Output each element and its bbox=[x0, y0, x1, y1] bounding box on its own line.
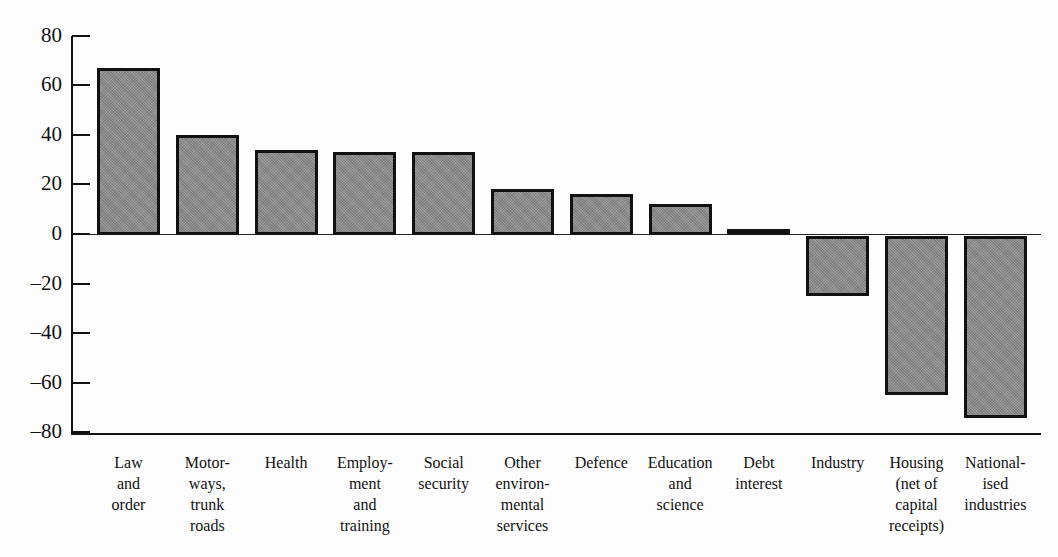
y-tick-label: –60 bbox=[6, 372, 62, 393]
category-label-line: environ- bbox=[473, 473, 573, 494]
y-tick-label: –80 bbox=[6, 421, 62, 442]
bar-health bbox=[255, 150, 318, 235]
category-label-line: services bbox=[473, 515, 573, 536]
bar-motorways-trunk-roads bbox=[176, 135, 239, 235]
category-label-line: industries bbox=[945, 494, 1045, 515]
y-tick bbox=[72, 431, 90, 433]
y-tick-label: 0 bbox=[6, 223, 62, 244]
y-tick bbox=[72, 382, 90, 384]
bar-other-environmental-services bbox=[491, 189, 554, 235]
bar-housing-net-of-capital-receipts bbox=[885, 236, 948, 395]
category-label-line: training bbox=[315, 515, 415, 536]
y-tick-label: 80 bbox=[6, 25, 62, 46]
category-label-line: ised bbox=[945, 473, 1045, 494]
category-label: National-isedindustries bbox=[945, 452, 1045, 515]
bar-education-and-science bbox=[649, 204, 712, 235]
y-tick-label: 40 bbox=[6, 124, 62, 145]
category-label-line: trunk bbox=[157, 494, 257, 515]
y-tick bbox=[72, 35, 90, 37]
y-tick-label: –40 bbox=[6, 322, 62, 343]
bar-law-and-order bbox=[97, 68, 160, 235]
category-label-line: and bbox=[315, 494, 415, 515]
bar-employment-and-training bbox=[333, 152, 396, 235]
y-tick bbox=[72, 233, 90, 235]
y-tick bbox=[72, 84, 90, 86]
y-axis bbox=[71, 36, 73, 435]
category-label-line: science bbox=[630, 494, 730, 515]
y-tick bbox=[72, 183, 90, 185]
category-label-line: interest bbox=[709, 473, 809, 494]
bar-debt-interest bbox=[727, 229, 790, 235]
y-tick-label: 60 bbox=[6, 74, 62, 95]
y-tick bbox=[72, 134, 90, 136]
bar-chart: 806040200–20–40–60–80 LawandorderMotor-w… bbox=[0, 0, 1058, 557]
category-label-line: mental bbox=[473, 494, 573, 515]
bar-nationalised-industries bbox=[964, 236, 1027, 418]
y-tick bbox=[72, 283, 90, 285]
bar-social-security bbox=[412, 152, 475, 235]
bar-industry bbox=[806, 236, 869, 296]
y-tick-label: 20 bbox=[6, 173, 62, 194]
category-label-line: ways, bbox=[157, 473, 257, 494]
category-label-line: National- bbox=[945, 452, 1045, 473]
category-label-line: receipts) bbox=[867, 515, 967, 536]
y-tick bbox=[72, 332, 90, 334]
y-tick-label: –20 bbox=[6, 273, 62, 294]
x-axis bbox=[71, 433, 1041, 435]
bar-defence bbox=[570, 194, 633, 235]
category-label-line: roads bbox=[157, 515, 257, 536]
